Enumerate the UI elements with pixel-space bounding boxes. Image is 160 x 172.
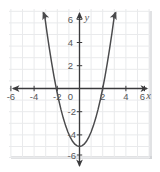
y-tick-label-2: 2 [68, 60, 73, 71]
y-axis-label: y [84, 12, 90, 23]
y-tick-label--2: -2 [68, 106, 76, 117]
x-tick-label-0: 0 [68, 91, 73, 102]
x-tick-label-6: 6 [140, 91, 145, 102]
x-tick-label--2: -2 [53, 91, 61, 102]
x-tick-label-4: 4 [123, 91, 128, 102]
x-axis-label: x [145, 90, 151, 101]
y-tick-label-6: 6 [68, 14, 73, 25]
coordinate-plane: -6 -4 -2 0 2 4 6 6 4 2 -2 -4 -6 y x [0, 0, 160, 172]
x-tick-label--4: -4 [30, 91, 38, 102]
x-tick-label--6: -6 [7, 91, 15, 102]
y-tick-label--4: -4 [68, 129, 76, 140]
x-tick-label-2: 2 [100, 91, 105, 102]
y-tick-label--6: -6 [68, 150, 76, 161]
graph-figure: -6 -4 -2 0 2 4 6 6 4 2 -2 -4 -6 y x [0, 0, 160, 172]
y-tick-label-4: 4 [68, 37, 73, 48]
